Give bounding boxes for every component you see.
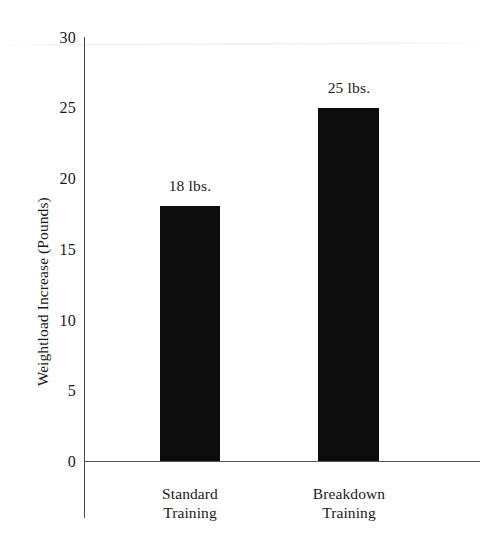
category-line-2: Training [278,503,420,522]
y-tick-label: 20 [44,171,76,187]
bar-breakdown-training[interactable] [318,108,379,461]
x-category-label-breakdown-training: Breakdown Training [278,484,420,522]
x-category-label-standard-training: Standard Training [120,484,260,522]
bar-value-label-breakdown-training: 25 lbs. [289,80,409,96]
y-tick-label: 0 [44,454,76,470]
y-tick-label: 5 [44,383,76,399]
y-axis-line [84,37,85,518]
bar-standard-training[interactable] [160,206,220,461]
category-line-1: Standard [120,484,260,503]
x-axis-baseline [84,461,480,462]
y-tick-label: 30 [44,30,76,46]
y-tick-label: 15 [44,242,76,258]
y-tick-label: 25 [44,100,76,116]
category-line-2: Training [120,503,260,522]
bar-chart-figure: Weightload Increase (Pounds) 30 25 20 15… [0,0,497,547]
bar-value-label-standard-training: 18 lbs. [130,178,250,194]
category-line-1: Breakdown [278,484,420,503]
y-tick-label: 10 [44,313,76,329]
